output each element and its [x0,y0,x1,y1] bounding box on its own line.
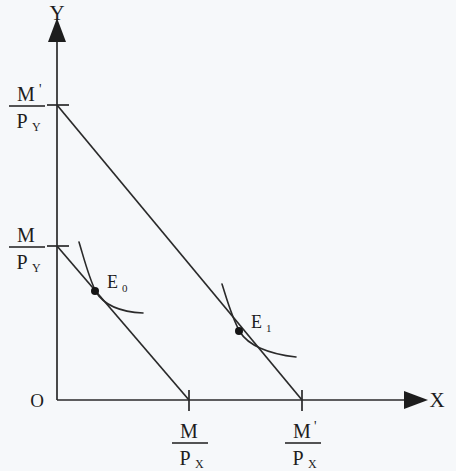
y-tick-upper-numerator: M [17,83,35,105]
budget-line-initial [57,246,189,400]
x-axis-label: X [429,388,444,412]
equilibrium-point-E1-dot [235,327,243,335]
x-tick-outer-denominator-subscript: X [308,457,317,471]
x-tick-inner-denominator: P [179,447,190,469]
y-tick-upper-denominator: P [16,110,27,132]
budget-line-new [57,105,302,400]
y-tick-lower-numerator: M [17,224,35,246]
x-tick-outer-denominator: P [292,447,303,469]
y-tick-lower-denominator: P [16,251,27,273]
equilibrium-point-E0-label: E [107,272,118,292]
equilibrium-point-E1-subscript: 1 [266,322,272,334]
equilibrium-point-E1-label: E [251,312,262,332]
economics-diagram: Y X O E 0 E 1 M ' P [0,0,456,471]
y-tick-lower-denominator-subscript: Y [32,261,41,275]
y-tick-upper-prime: ' [39,82,42,97]
x-tick-outer-prime: ' [314,419,317,434]
diagram-canvas: Y X O E 0 E 1 M ' P [0,0,456,471]
x-tick-inner-denominator-subscript: X [195,457,204,471]
x-tick-outer-numerator: M [293,420,311,442]
x-tick-label-outer: M ' P X [285,419,321,471]
x-tick-inner-numerator: M [180,420,198,442]
y-tick-upper-denominator-subscript: Y [32,120,41,134]
equilibrium-point-E0-subscript: 0 [122,282,128,294]
y-tick-label-lower: M P Y [9,224,45,275]
equilibrium-point-E0-dot [91,287,99,295]
y-tick-label-upper: M ' P Y [9,82,45,134]
origin-label: O [30,390,44,411]
y-axis-label: Y [49,1,64,25]
x-tick-label-inner: M P X [172,420,208,471]
x-axis-arrowhead [404,391,428,409]
